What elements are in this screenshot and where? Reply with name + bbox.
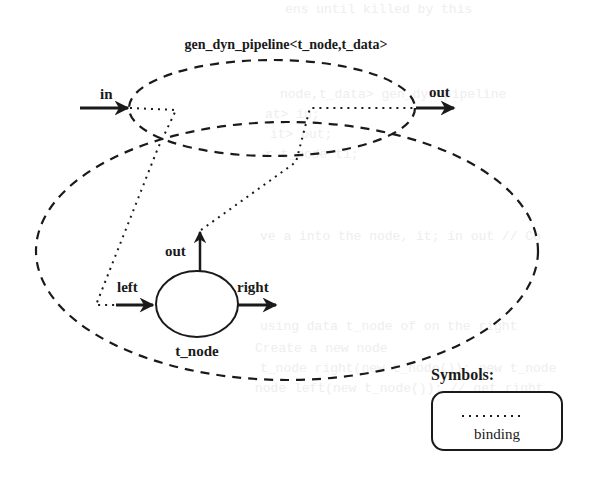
ghost-line: at> in; bbox=[265, 107, 320, 122]
legend-heading: Symbols: bbox=[431, 366, 494, 384]
out-port-label: out bbox=[429, 84, 450, 100]
t-node-label: t_node bbox=[175, 343, 219, 359]
ghost-line: node,t_data> gen_dyn_pipeline bbox=[280, 87, 506, 102]
bleed-through-text: ens until killed by this node,t_data> ge… bbox=[255, 2, 556, 396]
outer-in-port: in bbox=[80, 86, 128, 108]
ghost-line: ve a into the node, it; in out // Co bbox=[260, 229, 541, 244]
ghost-line: Create a new node bbox=[255, 341, 388, 356]
legend: Symbols: binding bbox=[431, 366, 562, 450]
left-port-label: left bbox=[117, 279, 138, 295]
ghost-line: ens until killed by this bbox=[285, 2, 472, 17]
right-port-label: right bbox=[237, 279, 269, 295]
diagram-title: gen_dyn_pipeline<t_node,t_data> bbox=[184, 37, 387, 52]
t-node-circle bbox=[156, 271, 238, 337]
t-node: t_node left right out bbox=[116, 232, 276, 359]
ghost-line: it> out; bbox=[270, 127, 332, 142]
bindings bbox=[96, 108, 414, 305]
binding-in-to-left bbox=[96, 108, 176, 305]
pipeline-diagram: ens until killed by this node,t_data> ge… bbox=[0, 0, 595, 480]
in-port-label: in bbox=[100, 86, 113, 102]
legend-binding-label: binding bbox=[474, 426, 520, 442]
node-out-port-label: out bbox=[165, 243, 186, 259]
ghost-line: using data t_node of on the right bbox=[260, 319, 517, 334]
